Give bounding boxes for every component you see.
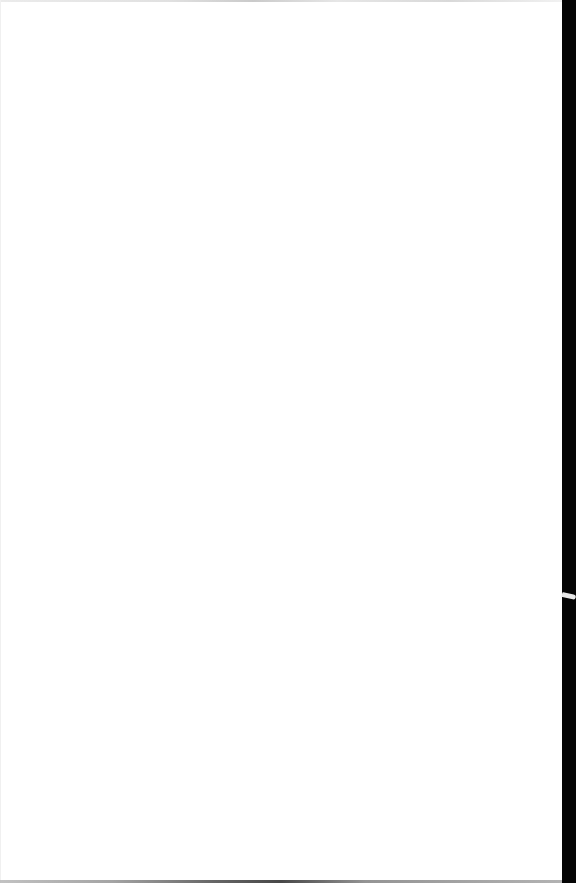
scanned-document [0,0,576,883]
blank-page [0,0,562,883]
left-page-edge [0,0,1,883]
scanner-right-border [562,0,576,883]
top-scan-shadow [0,0,562,2]
